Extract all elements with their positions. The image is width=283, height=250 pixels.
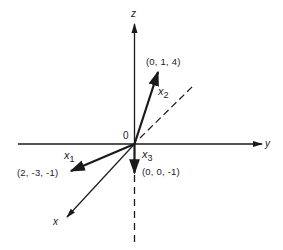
vector-x3-index: 3 — [148, 153, 153, 163]
vector-x1-coords: (2, -3, -1) — [17, 168, 58, 178]
x-axis-line — [67, 144, 135, 217]
vector-x1-index: 1 — [70, 154, 75, 164]
vector-diagram: z y x 0 x1 (2, -3, -1) x2 (0, 1, 4) x3 (… — [0, 0, 283, 250]
vector-x2-coords: (0, 1, 4) — [146, 57, 181, 67]
vector-x2-label: x2 — [158, 86, 169, 100]
vector-x3-label: x3 — [142, 149, 153, 163]
vector-x3-coords: (0, 0, -1) — [142, 167, 180, 177]
vector-x1-label: x1 — [64, 150, 75, 164]
z-axis-label: z — [131, 9, 136, 19]
diagram-graphics — [0, 0, 283, 250]
y-axis-label: y — [265, 139, 270, 149]
vector-x1-arrow — [71, 144, 135, 171]
x-axis-label: x — [53, 217, 58, 227]
vector-x2-index: 2 — [164, 90, 169, 100]
vector-x2-arrow — [135, 72, 159, 144]
origin-label: 0 — [123, 131, 129, 141]
